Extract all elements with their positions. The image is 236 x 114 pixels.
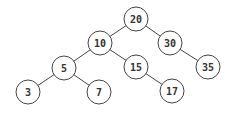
node-label: 30 xyxy=(164,38,176,49)
node-label: 20 xyxy=(130,14,142,25)
tree-node-7: 7 xyxy=(87,80,111,104)
tree-edges xyxy=(28,19,208,92)
node-label: 10 xyxy=(94,38,106,49)
node-label: 15 xyxy=(130,62,142,73)
tree-node-3: 3 xyxy=(16,80,40,104)
node-label: 35 xyxy=(202,62,214,73)
tree-node-17: 17 xyxy=(160,79,184,103)
tree-node-30: 30 xyxy=(158,31,182,55)
node-label: 5 xyxy=(61,63,67,74)
binary-tree-diagram: 201030515353717 xyxy=(0,0,236,114)
tree-node-35: 35 xyxy=(196,55,220,79)
node-label: 7 xyxy=(96,87,102,98)
tree-node-15: 15 xyxy=(124,55,148,79)
tree-node-5: 5 xyxy=(52,56,76,80)
tree-node-10: 10 xyxy=(88,31,112,55)
node-label: 3 xyxy=(25,87,31,98)
tree-node-20: 20 xyxy=(124,7,148,31)
node-label: 17 xyxy=(166,86,178,97)
